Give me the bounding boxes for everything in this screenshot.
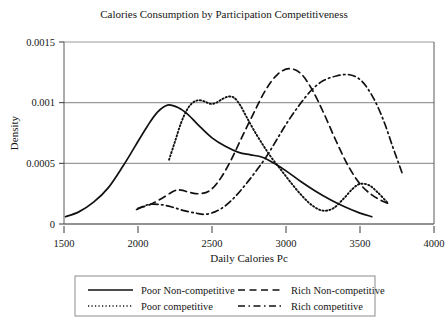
plot-frame [64,42,434,224]
x-tick-label: 1500 [54,238,75,249]
series-curve-dashdot [137,74,403,214]
x-tick-label: 2000 [128,238,149,249]
chart-container: Calories Consumption by Participation Co… [0,0,448,321]
y-axis-ticks: 00.00050.0010.0015 [26,37,64,230]
density-chart: Calories Consumption by Participation Co… [0,0,448,321]
legend-label: Rich Non-competitive [291,285,385,296]
y-tick-label: 0 [50,219,55,230]
y-tick-label: 0.001 [31,97,55,108]
chart-legend: Poor Non-competitiveRich Non-competitive… [75,276,385,316]
series-curves [65,69,402,217]
x-tick-label: 4000 [424,238,445,249]
y-tick-label: 0.0005 [26,158,55,169]
gridlines-group [64,42,434,224]
x-tick-label: 3500 [350,238,371,249]
x-axis-title: Daily Calories Pc [210,252,288,264]
y-axis-title: Density [8,115,20,150]
legend-label: Poor competitive [141,301,213,312]
legend-label: Poor Non-competitive [141,285,235,296]
x-tick-label: 2500 [202,238,223,249]
series-curve-solid [65,105,371,217]
y-tick-label: 0.0015 [26,37,55,48]
x-tick-label: 3000 [276,238,297,249]
x-axis-ticks: 150020002500300035004000 [54,226,445,249]
legend-label: Rich competitive [291,301,363,312]
chart-title: Calories Consumption by Participation Co… [100,8,347,20]
